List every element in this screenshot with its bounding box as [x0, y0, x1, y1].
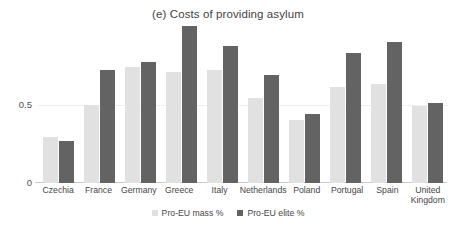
legend-label: Pro-EU elite %	[247, 209, 304, 218]
bar-mass	[289, 120, 304, 183]
x-axis-label: Germany	[119, 185, 159, 205]
plot-area	[38, 26, 448, 183]
x-axis-label: France	[78, 185, 118, 205]
y-tick-label: 0.5	[0, 100, 32, 110]
x-axis-label: Portugal	[327, 185, 367, 205]
x-axis-label: Greece	[159, 185, 199, 205]
x-axis-label: Poland	[287, 185, 327, 205]
bar-elite	[387, 42, 402, 183]
bar-elite	[100, 70, 115, 183]
bar-group	[407, 26, 448, 183]
bar-elite	[346, 53, 361, 183]
bar-mass	[166, 72, 181, 183]
bar-group	[161, 26, 202, 183]
bar-mass	[412, 106, 427, 183]
bar-group	[366, 26, 407, 183]
bar-elite	[182, 26, 197, 183]
legend-item[interactable]: Pro-EU mass %	[152, 209, 224, 218]
chart-title: (e) Costs of providing asylum	[0, 8, 456, 20]
bar-elite	[59, 141, 74, 183]
x-axis-label: Italy	[199, 185, 239, 205]
bar-mass	[371, 84, 386, 183]
bar-mass	[207, 70, 222, 183]
bar-elite	[305, 114, 320, 183]
bar-groups	[38, 26, 448, 183]
x-axis-label: Netherlands	[240, 185, 287, 205]
bar-group	[79, 26, 120, 183]
bar-mass	[125, 67, 140, 183]
bar-mass	[84, 105, 99, 184]
legend-swatch-elite-icon	[237, 210, 243, 216]
bar-mass	[43, 137, 58, 183]
x-axis-label: Czechia	[38, 185, 78, 205]
bar-elite	[223, 46, 238, 183]
legend-item[interactable]: Pro-EU elite %	[237, 209, 304, 218]
bar-mass	[330, 87, 345, 183]
bar-elite	[141, 62, 156, 183]
bar-group	[38, 26, 79, 183]
x-axis-label: Spain	[367, 185, 407, 205]
x-axis-labels: CzechiaFranceGermanyGreeceItalyNetherlan…	[38, 185, 448, 205]
chart-legend: Pro-EU mass %Pro-EU elite %	[0, 209, 456, 218]
bar-group	[325, 26, 366, 183]
chart-container: (e) Costs of providing asylum 00.5 Czech…	[0, 0, 456, 229]
bar-elite	[264, 75, 279, 183]
bar-group	[120, 26, 161, 183]
legend-swatch-mass-icon	[152, 210, 158, 216]
bar-group	[202, 26, 243, 183]
bar-elite	[428, 103, 443, 183]
legend-label: Pro-EU mass %	[162, 209, 224, 218]
y-tick-label: 0	[0, 178, 32, 188]
x-axis-label: United Kingdom	[408, 185, 448, 205]
bar-mass	[248, 98, 263, 183]
bar-group	[284, 26, 325, 183]
bar-group	[243, 26, 284, 183]
